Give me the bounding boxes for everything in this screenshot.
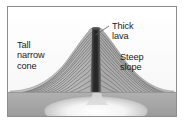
central-conduit	[90, 28, 101, 94]
label-tall-narrow-cone: Tall narrow cone	[17, 40, 44, 71]
label-thick-lava: Thick lava	[112, 21, 133, 42]
label-steep-slope: Steep slope	[120, 52, 144, 73]
diagram-frame: Tall narrow cone Thick lava Steep slope	[7, 6, 177, 117]
volcano-diagram-figure: Tall narrow cone Thick lava Steep slope	[0, 0, 185, 124]
